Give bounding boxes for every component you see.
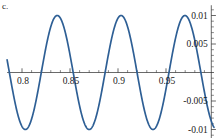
figure-panel: c. 0.80.850.90.95 0.010.005-0.005-0.01	[0, 0, 223, 138]
y-axis-tick-labels: 0.010.005-0.005-0.01	[183, 11, 208, 135]
y-tick-label: 0.005	[186, 39, 208, 49]
plot-area: 0.80.850.90.95 0.010.005-0.005-0.01	[0, 0, 223, 138]
y-tick-label: 0.01	[191, 11, 208, 21]
x-tick-label: 0.95	[159, 76, 176, 86]
y-tick-label: -0.005	[183, 96, 208, 106]
y-tick-label: -0.01	[188, 125, 208, 135]
x-tick-label: 0.9	[113, 76, 125, 86]
x-tick-label: 0.85	[63, 76, 80, 86]
x-axis-major-ticks	[22, 68, 166, 72]
x-tick-label: 0.8	[17, 76, 29, 86]
